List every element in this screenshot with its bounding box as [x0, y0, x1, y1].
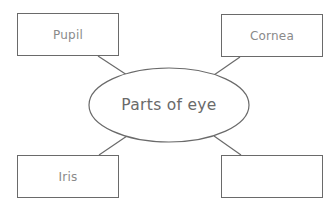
node-box-bottom-left: Iris — [17, 155, 119, 198]
node-box-top-right: Cornea — [221, 14, 323, 57]
node-label-pupil: Pupil — [53, 28, 83, 42]
connector-bottom-right — [214, 136, 241, 155]
connector-top-right — [214, 57, 240, 75]
center-topic-label: Parts of eye — [89, 90, 249, 120]
connector-top-left — [98, 56, 127, 75]
connector-bottom-left — [99, 136, 127, 155]
node-label-cornea: Cornea — [250, 29, 294, 43]
node-box-top-left: Pupil — [17, 13, 119, 56]
node-box-bottom-right-empty — [221, 155, 323, 198]
mind-map-diagram: Parts of eye Pupil Cornea Iris — [0, 0, 335, 209]
node-label-iris: Iris — [59, 170, 78, 184]
